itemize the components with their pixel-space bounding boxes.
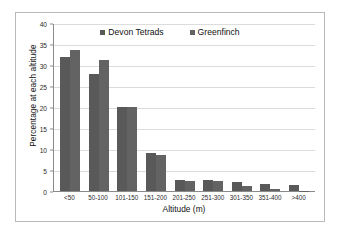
bar-group — [113, 24, 142, 191]
bar-group — [56, 24, 85, 191]
bar[interactable] — [117, 107, 127, 191]
bar-group — [142, 24, 171, 191]
bar[interactable] — [175, 180, 185, 191]
x-axis-tick-label: 151-200 — [141, 194, 170, 201]
x-axis-tick-label: 251-300 — [198, 194, 227, 201]
bar-group — [85, 24, 114, 191]
bar[interactable] — [242, 186, 252, 191]
bar-group — [256, 24, 285, 191]
bar[interactable] — [60, 57, 70, 191]
y-axis-tick-label: 0 — [43, 189, 47, 196]
x-axis-tick-label: <50 — [55, 194, 84, 201]
y-axis-tick-label: 10 — [40, 147, 47, 154]
y-axis-tick-label: 15 — [40, 126, 47, 133]
bar[interactable] — [289, 185, 299, 191]
bar[interactable] — [260, 184, 270, 191]
bar-group — [285, 24, 314, 191]
y-axis-tick-label: 20 — [40, 105, 47, 112]
y-axis-tick-label: 5 — [43, 168, 47, 175]
x-axis-tick-label: >400 — [284, 194, 313, 201]
x-axis-title: Altitude (m) — [53, 204, 315, 214]
bar-group — [199, 24, 228, 191]
x-axis-tick-label: 50-100 — [84, 194, 113, 201]
bar[interactable] — [89, 74, 99, 191]
bar[interactable] — [146, 153, 156, 191]
bar[interactable] — [270, 189, 280, 191]
y-axis-tick-label: 30 — [40, 63, 47, 70]
y-axis-tick-label: 25 — [40, 84, 47, 91]
x-axis-tick-label: 201-250 — [170, 194, 199, 201]
bar-group — [170, 24, 199, 191]
bar-group — [227, 24, 256, 191]
bar[interactable] — [203, 180, 213, 191]
bar[interactable] — [127, 107, 137, 191]
bar[interactable] — [213, 181, 223, 191]
bar[interactable] — [232, 182, 242, 191]
bar[interactable] — [70, 50, 80, 191]
plot-area-wrapper: Percentage at each altitude Devon Tetrad… — [16, 13, 324, 221]
y-axis-tick-labels: 0510152025303540 — [30, 24, 50, 192]
x-axis-tick-label: 101-150 — [112, 194, 141, 201]
bar[interactable] — [156, 155, 166, 191]
x-axis-tick-label: 351-400 — [256, 194, 285, 201]
bar[interactable] — [185, 181, 195, 191]
x-axis-tick-labels: <5050-100101-150151-200201-250251-300301… — [53, 194, 315, 201]
bar-groups — [54, 24, 315, 191]
y-axis-tick-label: 35 — [40, 42, 47, 49]
bar[interactable] — [99, 60, 109, 191]
plot-area — [53, 24, 315, 192]
chart-container: Percentage at each altitude Devon Tetrad… — [15, 12, 325, 222]
x-axis-tick-label: 301-350 — [227, 194, 256, 201]
y-axis-tick-label: 40 — [40, 21, 47, 28]
